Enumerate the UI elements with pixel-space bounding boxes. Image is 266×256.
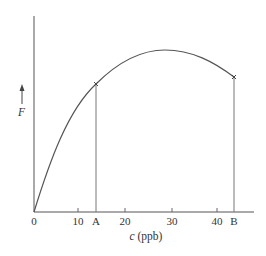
x-tick-label-40: 40: [212, 215, 224, 227]
x-tick-label-30: 30: [167, 215, 179, 227]
x-axis-label: c (ppb): [130, 230, 163, 243]
x-tick-label-20: 20: [120, 215, 132, 227]
y-axis-label: F: [17, 106, 26, 118]
x-tick-label-b: B: [230, 215, 237, 227]
response-curve: [34, 50, 234, 212]
chart-canvas: F 0 10 A 20 30 40 B c (ppb): [0, 0, 266, 256]
x-tick-label-10: 10: [73, 215, 85, 227]
up-arrow-icon: [20, 84, 25, 104]
x-tick-label-a: A: [92, 215, 100, 227]
x-tick-label-0: 0: [31, 215, 37, 227]
